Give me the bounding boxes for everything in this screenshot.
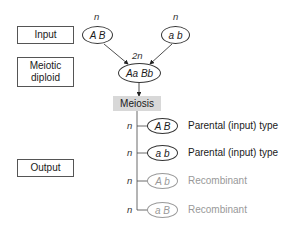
input-1-ploidy: n <box>94 11 99 22</box>
output-label-box: Output <box>17 159 74 177</box>
output-4-ploidy: n <box>127 204 132 215</box>
output-2-ploidy: n <box>127 147 132 158</box>
input-label: Input <box>34 29 56 41</box>
output-1-genotype: A B <box>147 118 178 134</box>
meiotic-diploid-label-box: Meiotic diploid <box>17 57 74 87</box>
diploid-genotype: Aa Bb <box>118 63 161 83</box>
output-3-type: Recombinant <box>188 175 247 186</box>
output-4-type: Recombinant <box>188 204 247 215</box>
diploid-ploidy: 2n <box>132 50 143 61</box>
output-4-genotype: a B <box>147 202 178 218</box>
input-2-ploidy: n <box>173 11 178 22</box>
input-2-genotype: a b <box>161 26 190 44</box>
input-1-genotype: A B <box>82 26 113 44</box>
output-2-type: Parental (input) type <box>188 147 278 158</box>
input-label-box: Input <box>17 26 74 44</box>
meiotic-diploid-label: Meiotic diploid <box>18 60 73 84</box>
output-label: Output <box>30 162 60 174</box>
meiosis-process: Meiosis <box>113 96 161 111</box>
output-1-ploidy: n <box>127 120 132 131</box>
output-3-ploidy: n <box>127 175 132 186</box>
output-3-genotype: A b <box>147 173 178 189</box>
output-2-genotype: a b <box>147 145 178 161</box>
output-1-type: Parental (input) type <box>188 120 278 131</box>
